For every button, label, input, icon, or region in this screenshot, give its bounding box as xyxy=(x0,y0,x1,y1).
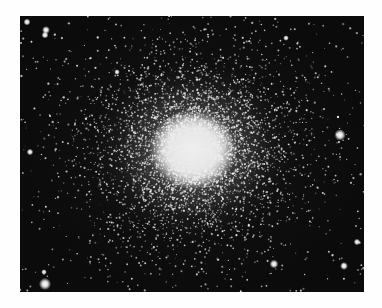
star-field xyxy=(20,16,364,292)
image-frame xyxy=(0,0,382,308)
star-cluster-photo xyxy=(20,16,364,292)
